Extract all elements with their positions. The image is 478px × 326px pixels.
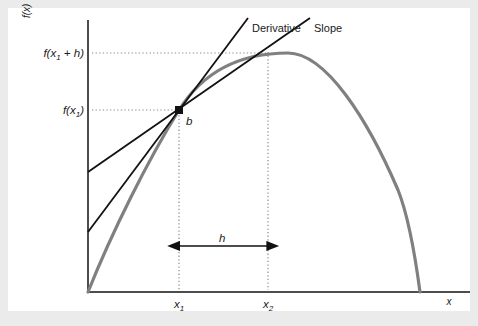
- x-axis-label: x: [446, 296, 453, 307]
- derivative-slope-diagram: b h Derivative Slope f(x) x f(x1 + h) f(…: [0, 0, 478, 326]
- slope-secant-line: [88, 18, 310, 172]
- tangent-point-group: b: [175, 106, 193, 127]
- y-label-fx1: f(x1): [63, 104, 84, 119]
- y-axis-label: f(x): [21, 4, 32, 18]
- function-curve: [88, 53, 420, 292]
- derivative-line-group: [88, 18, 248, 232]
- x-label-x2-sub: 2: [268, 304, 274, 313]
- line-annotations-group: Derivative Slope: [252, 22, 342, 34]
- x-label-x1: x1: [173, 298, 184, 313]
- h-measure-group: h: [180, 232, 267, 246]
- point-b-marker: [175, 106, 183, 114]
- derivative-label: Derivative: [252, 22, 301, 34]
- guide-lines-group: [92, 52, 268, 290]
- axis-titles-group: f(x) x: [21, 4, 453, 307]
- curve-group: [88, 53, 420, 292]
- x-label-x2: x2: [262, 298, 274, 313]
- slope-line-group: [88, 18, 310, 172]
- y-label-fx1-plus-h-suffix: + h): [61, 47, 85, 59]
- y-tick-labels-group: f(x1 + h) f(x1): [43, 47, 84, 119]
- point-b-label: b: [186, 115, 193, 127]
- x-tick-labels-group: x1 x2: [173, 298, 274, 313]
- h-measure-label: h: [219, 232, 225, 244]
- derivative-tangent-line: [88, 18, 248, 232]
- y-label-fx1-plus-h: f(x1 + h): [43, 47, 84, 62]
- x-label-x1-sub: 1: [180, 304, 184, 313]
- slope-label: Slope: [314, 22, 342, 34]
- figure-container: b h Derivative Slope f(x) x f(x1 + h) f(…: [0, 0, 478, 326]
